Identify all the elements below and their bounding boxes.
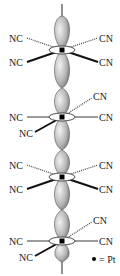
- svg-text:NC: NC: [19, 128, 33, 139]
- svg-text:CN: CN: [99, 33, 113, 44]
- svg-text:CN: CN: [99, 236, 113, 247]
- svg-text:CN: CN: [99, 112, 113, 123]
- svg-text:CN: CN: [99, 184, 113, 195]
- pt-atom: [60, 115, 65, 120]
- svg-text:NC: NC: [19, 252, 33, 263]
- svg-text:CN: CN: [99, 160, 113, 171]
- svg-text:NC: NC: [9, 57, 23, 68]
- pt-legend-dot: [92, 257, 96, 261]
- svg-text:NC: NC: [9, 33, 23, 44]
- svg-text:NC: NC: [9, 112, 23, 123]
- pt-atom: [60, 175, 65, 180]
- pt-atom: [60, 239, 65, 244]
- svg-text:CN: CN: [99, 57, 113, 68]
- svg-text:CN: CN: [93, 215, 107, 226]
- svg-text:CN: CN: [93, 91, 107, 102]
- pt-atom: [60, 48, 65, 53]
- legend: = Pt: [92, 254, 116, 265]
- svg-text:NC: NC: [9, 236, 23, 247]
- svg-text:= Pt: = Pt: [99, 254, 116, 265]
- svg-text:NC: NC: [9, 160, 23, 171]
- pt-cn-chain-diagram: NC CN NC CN CN NC CN NC NC CN NC CN: [0, 0, 120, 276]
- svg-text:NC: NC: [9, 184, 23, 195]
